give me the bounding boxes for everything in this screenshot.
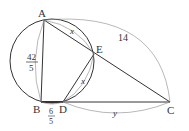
label-AC: 14 <box>118 32 128 43</box>
circumcircle <box>10 19 94 103</box>
label-DC: y <box>112 108 117 118</box>
geometry-diagram: A B D E C 42 5 6 5 x x 14 y <box>0 0 189 131</box>
label-AE: x <box>69 26 74 36</box>
label-AB-numerator: 42 <box>27 52 36 62</box>
segment-AB <box>41 20 44 102</box>
label-BD-denominator: 5 <box>49 117 53 126</box>
label-C: C <box>167 104 174 116</box>
segment-AC <box>44 20 170 102</box>
label-B: B <box>33 103 40 115</box>
label-E: E <box>96 43 103 55</box>
segment-DE <box>63 54 94 102</box>
label-A: A <box>38 7 46 19</box>
label-ED: x <box>80 76 85 86</box>
label-D: D <box>59 103 67 115</box>
label-BD-numerator: 6 <box>49 107 53 116</box>
label-AB-denominator: 5 <box>29 63 34 73</box>
